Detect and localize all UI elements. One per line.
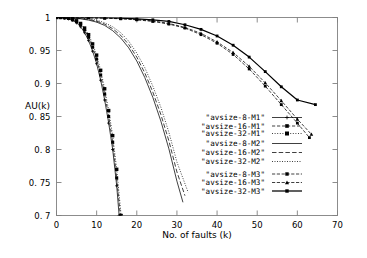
legend-label: "avsize-32-M3" (201, 187, 265, 196)
legend-label: "avsize-8-M2" (206, 139, 265, 148)
legend-label: "avsize-16-M2" (201, 148, 265, 157)
x-tick-label: 20 (131, 220, 142, 230)
y-tick-label: 1 (45, 13, 50, 23)
y-tick-label: 0. 8 (34, 145, 50, 155)
x-tick-label: 50 (252, 220, 263, 230)
x-tick-label: 40 (212, 220, 223, 230)
y-axis-title: AU(k) (25, 101, 50, 111)
y-tick-label: 0. 75 (29, 178, 51, 188)
legend-label: "avsize-32-M2" (201, 157, 265, 166)
x-tick-label: 30 (172, 220, 183, 230)
chart-figure: 0. 70. 750. 80. 850. 90. 951010203040506… (0, 0, 367, 258)
y-tick-label: 0. 95 (29, 46, 51, 56)
legend-label: "avsize-32-M1" (201, 129, 265, 138)
y-tick-label: 0. 85 (29, 112, 51, 122)
y-tick-label: 0. 7 (34, 211, 50, 221)
x-tick-label: 0 (54, 220, 59, 230)
x-axis-title: No. of faults (k) (162, 230, 232, 240)
y-tick-label: 0. 9 (34, 79, 50, 89)
x-tick-label: 60 (292, 220, 303, 230)
x-tick-label: 70 (332, 220, 343, 230)
x-tick-label: 10 (91, 220, 102, 230)
